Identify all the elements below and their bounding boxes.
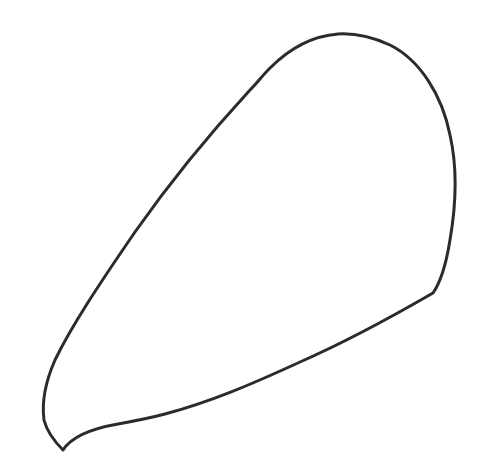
drawing-canvas (0, 0, 490, 468)
shape-outline (43, 34, 455, 450)
